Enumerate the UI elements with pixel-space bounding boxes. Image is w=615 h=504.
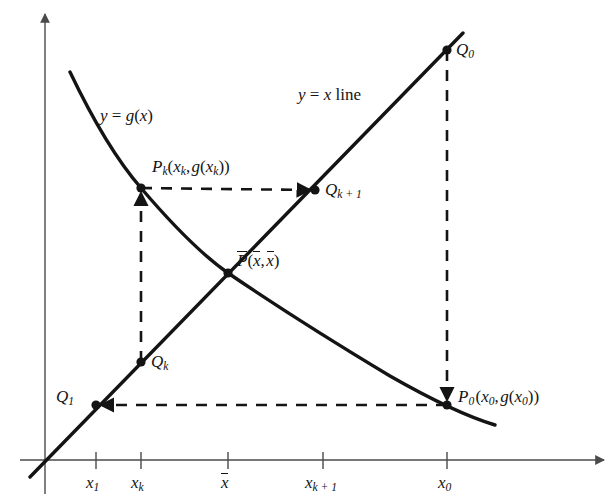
- point-label-qk: Qk: [151, 353, 168, 373]
- point-label-qk1: Qk + 1: [325, 181, 362, 201]
- point-label-pk: Pk(xk, g(xk)): [152, 158, 230, 178]
- point-pk: [136, 183, 145, 192]
- point-q1: [91, 400, 100, 409]
- tick-label-x0: x0: [438, 474, 451, 494]
- point-q0: [442, 45, 451, 54]
- tick-label-xk1: xk + 1: [305, 474, 337, 494]
- point-label-p0: P0 (x0, g(x0)): [458, 388, 539, 408]
- point-label-q1: Q1: [56, 388, 74, 408]
- point-p0: [442, 400, 451, 409]
- point-label-q0: Q0: [456, 41, 474, 61]
- point-qk: [136, 357, 145, 366]
- point-label-pbar: P(x, x): [237, 252, 280, 269]
- line-label-y-equals-x-line: y = x line: [298, 86, 361, 103]
- tick-label-x1: x1: [86, 474, 99, 494]
- tick-label-xk: xk: [131, 474, 144, 494]
- curve-label-y-equals-g-of-x: y = g(x): [100, 107, 153, 124]
- arrow-pk-to-qk1: [141, 188, 309, 190]
- plot-svg: [0, 0, 615, 504]
- point-qk1: [310, 185, 319, 194]
- point-pbar: [223, 268, 232, 277]
- tick-label-xbar: x: [221, 474, 229, 491]
- figure-canvas: y = g(x) y = x line Pk(xk, g(xk)) Qk + 1…: [0, 0, 615, 504]
